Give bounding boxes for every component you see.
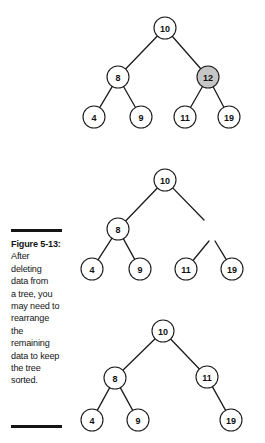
tree-edge xyxy=(100,86,113,107)
tree-edge-dangling xyxy=(215,241,226,260)
caption-line: data to keep xyxy=(11,350,65,362)
node-label: 9 xyxy=(137,265,142,275)
node-label: 8 xyxy=(115,225,120,235)
node-label: 9 xyxy=(135,416,140,426)
tree-node-8: 8 xyxy=(107,218,129,240)
tree-node-9: 9 xyxy=(130,106,152,128)
node-label: 4 xyxy=(89,416,94,426)
caption-line: sorted. xyxy=(11,374,65,386)
node-label: 8 xyxy=(115,73,120,83)
tree-node-8: 8 xyxy=(104,367,126,389)
tree-node-19: 19 xyxy=(221,258,243,280)
tree-node-19: 19 xyxy=(220,409,242,431)
node-label: 8 xyxy=(112,374,117,384)
node-label: 10 xyxy=(160,176,170,186)
tree-before-deletion: 10812491119 xyxy=(83,17,240,128)
caption-line: deleting xyxy=(11,263,65,275)
tree-edge xyxy=(123,339,155,371)
tree-after-deletion: 108491119 xyxy=(81,169,243,280)
tree-node-8: 8 xyxy=(107,66,129,88)
caption-line: data from xyxy=(11,275,65,287)
tree-node-12: 12 xyxy=(197,66,219,88)
tree-node-10: 10 xyxy=(154,169,176,191)
caption-line: the tree xyxy=(11,362,65,374)
tree-edge xyxy=(212,387,225,411)
tree-node-19: 19 xyxy=(218,106,240,128)
tree-edge xyxy=(126,188,158,221)
tree-edge xyxy=(97,388,109,411)
node-label: 10 xyxy=(160,24,170,34)
tree-edge xyxy=(123,87,135,108)
tree-edge xyxy=(171,339,200,369)
node-label: 10 xyxy=(158,327,168,337)
figure-5-13: 10812491119108491119108114919 Figure 5-1… xyxy=(0,0,265,443)
tree-node-4: 4 xyxy=(83,106,105,128)
caption-line: rearrange xyxy=(11,312,65,324)
tree-rearranged: 108114919 xyxy=(81,320,242,431)
node-label: 19 xyxy=(226,416,236,426)
tree-edge xyxy=(126,36,158,69)
caption-rule-bottom xyxy=(11,425,62,428)
caption-line: the xyxy=(11,325,65,337)
tree-node-11: 11 xyxy=(196,366,218,388)
tree-node-11: 11 xyxy=(174,106,196,128)
caption-line: remaining xyxy=(11,337,65,349)
tree-edge xyxy=(120,388,132,411)
tree-edge xyxy=(123,239,134,260)
tree-edge-dangling xyxy=(173,188,204,220)
caption-rule-top xyxy=(11,229,62,232)
node-label: 9 xyxy=(138,113,143,123)
node-label: 19 xyxy=(227,265,237,275)
caption-line: may need to xyxy=(11,300,65,312)
node-label: 11 xyxy=(202,373,212,383)
tree-edge xyxy=(172,36,200,68)
node-label: 11 xyxy=(180,113,190,123)
caption-line: a tree, you xyxy=(11,288,65,300)
node-label: 12 xyxy=(203,73,213,83)
tree-node-9: 9 xyxy=(129,258,151,280)
tree-edge xyxy=(213,87,224,108)
tree-edge xyxy=(190,87,202,108)
tree-node-9: 9 xyxy=(127,409,149,431)
tree-node-4: 4 xyxy=(81,258,103,280)
caption-title: Figure 5-13: xyxy=(11,238,65,250)
caption-body: Afterdeletingdata froma tree, youmay nee… xyxy=(11,250,65,386)
caption-line: After xyxy=(11,250,65,262)
tree-edge-dangling xyxy=(193,241,209,261)
node-label: 11 xyxy=(181,265,191,275)
tree-edge xyxy=(98,238,112,260)
figure-caption: Figure 5-13: Afterdeletingdata froma tre… xyxy=(11,229,65,387)
node-label: 4 xyxy=(89,265,94,275)
tree-node-4: 4 xyxy=(81,409,103,431)
node-label: 19 xyxy=(224,113,234,123)
tree-node-10: 10 xyxy=(154,17,176,39)
tree-node-10: 10 xyxy=(152,320,174,342)
node-label: 4 xyxy=(91,113,96,123)
tree-node-11: 11 xyxy=(175,258,197,280)
caption-text: Figure 5-13: Afterdeletingdata froma tre… xyxy=(11,238,65,387)
